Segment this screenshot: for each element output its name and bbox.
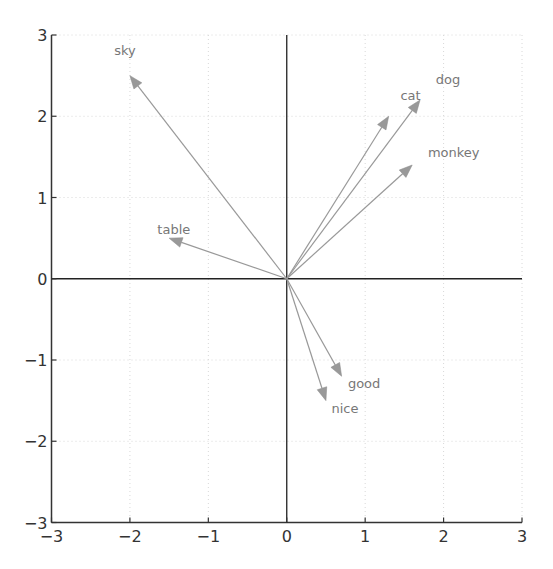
arrowhead-good <box>331 362 342 376</box>
label-table: table <box>157 222 190 237</box>
x-tick-label: 3 <box>517 527 527 546</box>
arrowhead-cat <box>378 116 389 130</box>
y-tick-label: 2 <box>37 107 47 126</box>
arrowhead-sky <box>130 76 142 89</box>
y-tick-label: −2 <box>24 432 48 451</box>
vector-sky <box>138 86 287 279</box>
arrowhead-table <box>169 238 183 247</box>
tick-labels: −3−2−10123−3−2−10123 <box>24 26 527 546</box>
y-tick-label: 0 <box>37 270 47 289</box>
x-tick-label: 1 <box>360 527 370 546</box>
y-tick-label: 3 <box>37 26 47 45</box>
y-tick-label: −1 <box>24 351 48 370</box>
x-tick-label: −2 <box>118 527 142 546</box>
vector-nice <box>287 279 322 388</box>
label-nice: nice <box>331 401 358 416</box>
label-monkey: monkey <box>428 145 480 160</box>
label-cat: cat <box>400 88 420 103</box>
vectors <box>130 76 420 401</box>
label-sky: sky <box>114 43 136 58</box>
vector-table <box>181 242 286 278</box>
vector-plot: skytablecatdogmonkeygoodnice −3−2−10123−… <box>0 0 553 569</box>
x-tick-label: 2 <box>438 527 448 546</box>
vector-monkey <box>287 174 403 279</box>
vector-labels: skytablecatdogmonkeygoodnice <box>114 43 480 416</box>
y-tick-label: 1 <box>37 189 47 208</box>
y-tick-label: −3 <box>24 514 48 533</box>
x-tick-label: 0 <box>282 527 292 546</box>
vector-good <box>287 279 336 365</box>
arrowhead-nice <box>317 387 327 401</box>
label-good: good <box>348 376 380 391</box>
vector-dog <box>287 110 413 278</box>
x-tick-label: −1 <box>197 527 221 546</box>
vector-cat <box>287 127 382 278</box>
label-dog: dog <box>436 72 460 87</box>
